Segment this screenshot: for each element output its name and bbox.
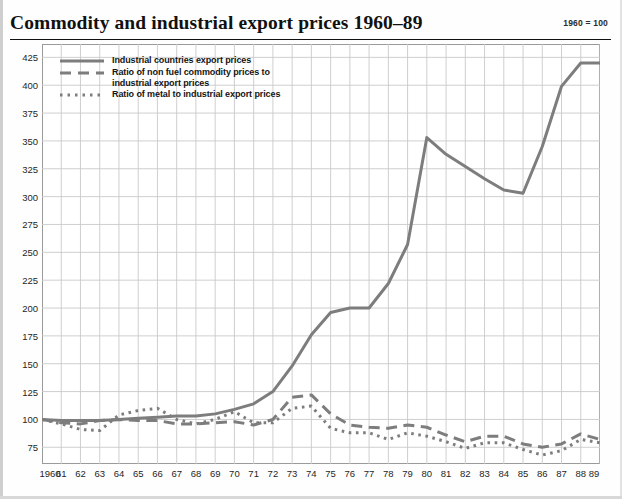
y-axis-tick: 175 xyxy=(22,330,38,341)
x-axis-tick: 79 xyxy=(402,468,413,479)
series-path-industrial xyxy=(42,63,600,421)
index-base-note: 1960 = 100 xyxy=(563,18,608,28)
plot-area xyxy=(42,44,600,464)
x-axis-tick: 83 xyxy=(479,468,490,479)
y-axis-labels: 7510012515017520022525027530032535037540… xyxy=(0,44,38,464)
legend-label-metal: Ratio of metal to industrial export pric… xyxy=(112,89,310,100)
title-bar: Commodity and industrial export prices 1… xyxy=(10,12,610,38)
x-axis-tick: 73 xyxy=(287,468,298,479)
y-axis-tick: 225 xyxy=(22,275,38,286)
page-title: Commodity and industrial export prices 1… xyxy=(10,12,422,34)
x-axis-tick: 81 xyxy=(441,468,452,479)
x-axis-tick: 72 xyxy=(268,468,279,479)
x-axis-tick: 69 xyxy=(210,468,221,479)
legend-item-metal: Ratio of metal to industrial export pric… xyxy=(60,89,310,100)
x-axis-tick: 66 xyxy=(152,468,163,479)
x-axis-tick: 62 xyxy=(75,468,86,479)
x-axis-tick: 63 xyxy=(94,468,105,479)
y-axis-tick: 425 xyxy=(22,52,38,63)
y-axis-tick: 400 xyxy=(22,80,38,91)
x-axis-tick: 86 xyxy=(537,468,548,479)
y-axis-tick: 375 xyxy=(22,108,38,119)
x-axis-tick: 64 xyxy=(114,468,125,479)
data-series xyxy=(42,44,600,464)
chart-legend: Industrial countries export prices Ratio… xyxy=(60,55,310,101)
x-axis-tick: 61 xyxy=(56,468,67,479)
dotted-line-key xyxy=(60,93,104,97)
y-axis-tick: 200 xyxy=(22,303,38,314)
x-axis-tick: 77 xyxy=(364,468,375,479)
legend-label-industrial: Industrial countries export prices xyxy=(112,55,310,66)
chart-figure: Commodity and industrial export prices 1… xyxy=(0,0,622,499)
legend-item-industrial: Industrial countries export prices xyxy=(60,55,310,66)
x-axis-tick: 84 xyxy=(498,468,509,479)
y-axis-tick: 325 xyxy=(22,163,38,174)
x-axis-tick: 70 xyxy=(229,468,240,479)
x-axis-tick: 82 xyxy=(460,468,471,479)
x-axis-tick: 76 xyxy=(345,468,356,479)
y-axis-tick: 350 xyxy=(22,135,38,146)
x-axis-tick: 71 xyxy=(248,468,259,479)
x-axis-tick: 78 xyxy=(383,468,394,479)
x-axis-tick: 80 xyxy=(422,468,433,479)
x-axis-tick: 85 xyxy=(518,468,529,479)
y-axis-tick: 100 xyxy=(22,414,38,425)
x-axis-tick: 65 xyxy=(133,468,144,479)
y-axis-tick: 150 xyxy=(22,358,38,369)
legend-item-nonfuel: Ratio of non fuel commodity prices to in… xyxy=(60,67,310,88)
legend-label-nonfuel: Ratio of non fuel commodity prices to in… xyxy=(112,67,310,88)
x-axis-tick: 87 xyxy=(556,468,567,479)
x-axis-tick: 75 xyxy=(325,468,336,479)
x-axis-tick: 74 xyxy=(306,468,317,479)
solid-line-key xyxy=(60,59,104,63)
y-axis-tick: 75 xyxy=(27,442,38,453)
y-axis-tick: 275 xyxy=(22,219,38,230)
x-axis-labels: 1960616263646566676869707172737475767778… xyxy=(42,468,600,484)
y-axis-tick: 300 xyxy=(22,191,38,202)
dashed-line-key xyxy=(60,71,104,75)
x-axis-tick: 88 xyxy=(575,468,586,479)
x-axis-tick: 89 xyxy=(589,468,600,479)
y-axis-tick: 125 xyxy=(22,386,38,397)
series-path-metal xyxy=(42,406,600,455)
x-axis-tick: 68 xyxy=(191,468,202,479)
series-path-nonfuel xyxy=(42,395,600,447)
x-axis-tick: 67 xyxy=(171,468,182,479)
y-axis-tick: 250 xyxy=(22,247,38,258)
title-divider xyxy=(10,39,611,40)
